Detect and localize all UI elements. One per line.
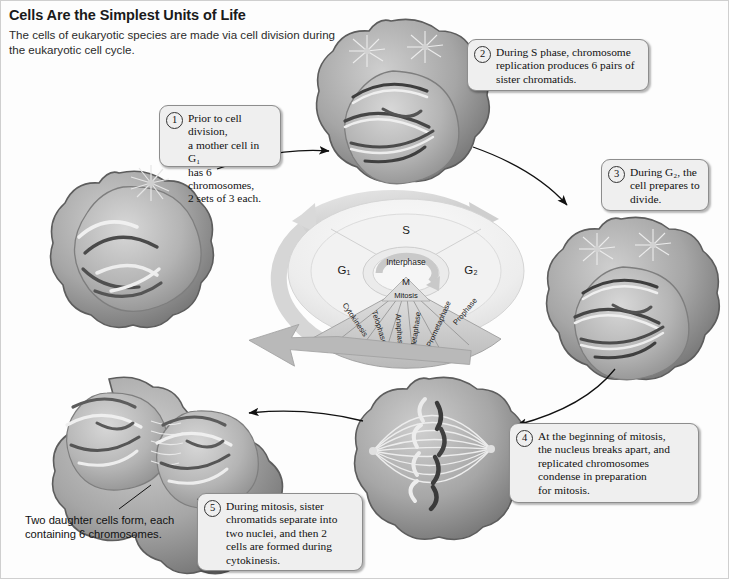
callout-4[interactable]: 4 At the beginning of mitosis, the nucle… bbox=[509, 423, 699, 503]
wheel-label-s: S bbox=[402, 224, 410, 236]
callout-3-number: 3 bbox=[608, 166, 625, 183]
callout-3-line-1: During G₂, the bbox=[630, 166, 697, 178]
callout-2-line-3: sister chromatids. bbox=[496, 73, 576, 85]
callout-4-line-3: replicated chromosomes bbox=[538, 457, 649, 469]
callout-4-line-1: At the beginning of mitosis, bbox=[538, 430, 666, 442]
caption-line-2: containing 6 chromosomes. bbox=[25, 528, 162, 540]
callout-1-line-3: has 6 chromosomes, bbox=[188, 166, 254, 191]
callout-4-line-2: the nucleus breaks apart, and bbox=[538, 443, 670, 455]
callout-5-line-2: chromatids separate into bbox=[226, 513, 337, 525]
figure-root: Cells Are the Simplest Units of Life The… bbox=[0, 0, 729, 579]
callout-5-line-1: During mitosis, sister bbox=[226, 500, 324, 512]
arrow-g2-to-mitosis bbox=[517, 369, 615, 425]
callout-2-line-2: replication produces 6 pairs of bbox=[496, 59, 635, 71]
wheel-label-g1: G₁ bbox=[338, 264, 351, 276]
callout-2[interactable]: 2 During S phase, chromosome replication… bbox=[467, 39, 649, 91]
callout-3-line-3: divide. bbox=[630, 193, 661, 205]
daughter-cells-caption: Two daughter cells form, each containing… bbox=[25, 513, 230, 541]
wheel-label-g2: G₂ bbox=[464, 264, 477, 276]
callout-3[interactable]: 3 During G₂, the cell prepares to divide… bbox=[601, 159, 709, 211]
arrow-mitosis-to-daughters bbox=[249, 411, 363, 421]
callout-1-number: 1 bbox=[166, 112, 183, 129]
cell-g2 bbox=[547, 217, 720, 379]
cell-mitosis bbox=[355, 377, 528, 539]
caption-line-1: Two daughter cells form, each bbox=[25, 514, 174, 526]
callout-1-line-4: 2 sets of 3 each. bbox=[188, 192, 261, 204]
wheel-label-interphase: Interphase bbox=[386, 257, 426, 267]
callout-1-line-2: a mother cell in G₁ bbox=[188, 139, 259, 164]
cell-s-phase bbox=[317, 19, 490, 183]
callout-4-line-4: condense in preparation bbox=[538, 470, 647, 482]
callout-4-line-5: for mitosis. bbox=[538, 484, 590, 496]
callout-5-line-3: two nuclei, and then 2 bbox=[226, 527, 327, 539]
callout-5-line-4: cells are formed during bbox=[226, 540, 332, 552]
callout-2-line-1: During S phase, chromosome bbox=[496, 46, 631, 58]
callout-4-number: 4 bbox=[516, 430, 533, 447]
callout-2-number: 2 bbox=[474, 46, 491, 63]
wheel-label-mitosis: Mitosis bbox=[394, 291, 418, 300]
wheel-label-m: M bbox=[402, 276, 410, 287]
callout-1[interactable]: 1 Prior to cell division, a mother cell … bbox=[159, 105, 281, 167]
callout-3-line-2: cell prepares to bbox=[630, 179, 700, 191]
callout-2-text: During S phase, chromosome replication p… bbox=[468, 40, 648, 92]
callout-5-line-5: cytokinesis. bbox=[226, 554, 280, 566]
callout-1-line-1: Prior to cell division, bbox=[188, 112, 242, 137]
callout-4-text: At the beginning of mitosis, the nucleus… bbox=[510, 424, 698, 503]
arrow-s-to-g2 bbox=[473, 147, 567, 205]
